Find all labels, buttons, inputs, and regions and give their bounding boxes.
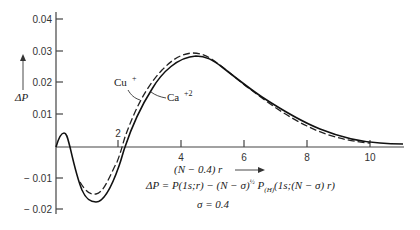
sigma-value: σ = 0.4 [197, 198, 230, 210]
series-ca2-curve [80, 53, 370, 194]
svg-text:Ca: Ca [167, 91, 179, 103]
cu-label: Cu + [114, 74, 140, 100]
formula: ΔP = P(1s;r) − (N − σ)½ P(H)(1s;(N − σ) … [145, 178, 335, 210]
svg-text:ΔP: ΔP [14, 91, 28, 103]
y-tick-label: 0.04 [33, 14, 53, 25]
ca2-label: Ca +2 [151, 89, 193, 103]
arrow-up-icon [20, 54, 26, 61]
x-tick-label: 2 [115, 128, 121, 139]
svg-text:+: + [132, 74, 137, 83]
y-axis-label: ΔP [14, 54, 28, 103]
x-tick-label: 4 [178, 152, 184, 163]
x-axis-label: (N − 0.4) r [174, 163, 265, 176]
chart: 0.04 0.03 0.02 0.01 − 0.01 − 0.02 2 4 6 … [0, 0, 420, 230]
y-tick-label: 0.03 [33, 46, 53, 57]
y-tick-label: 0.01 [33, 109, 53, 120]
x-tick-label: 6 [241, 152, 247, 163]
y-tick-label: − 0.02 [24, 204, 53, 215]
svg-text:Cu: Cu [114, 76, 127, 88]
leader-line [128, 90, 140, 100]
arrow-right-icon [258, 167, 265, 173]
x-ticks: 2 4 6 8 10 [115, 128, 376, 163]
svg-text:(N − 0.4) r: (N − 0.4) r [174, 163, 223, 176]
y-ticks: 0.04 0.03 0.02 0.01 − 0.01 − 0.02 [24, 14, 63, 215]
y-tick-label: 0.02 [33, 77, 53, 88]
svg-text:ΔP = P(1s;r) − (N − σ)½ P(H)(1: ΔP = P(1s;r) − (N − σ)½ P(H)(1s;(N − σ) … [145, 178, 335, 194]
svg-text:+2: +2 [184, 89, 193, 98]
x-tick-label: 10 [364, 152, 376, 163]
leader-line [151, 92, 166, 98]
x-tick-label: 8 [304, 152, 310, 163]
y-tick-label: − 0.01 [24, 173, 53, 184]
